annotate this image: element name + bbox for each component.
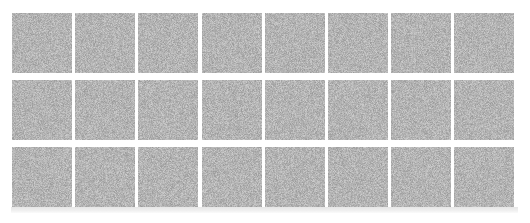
noise-grid-figure <box>0 0 530 223</box>
patch-r3-c4-texture <box>202 147 262 207</box>
patch-r2-c7 <box>391 80 451 140</box>
patch-r1-c2-texture <box>75 13 135 73</box>
patch-r3-c3 <box>138 147 198 207</box>
patch-r3-c3-texture <box>138 147 198 207</box>
patch-r2-c1-texture <box>12 80 72 140</box>
patch-r3-c7-texture <box>391 147 451 207</box>
patch-r1-c2 <box>75 13 135 73</box>
patch-r1-c4 <box>202 13 262 73</box>
patch-r2-c2-texture <box>75 80 135 140</box>
patch-r1-c6 <box>328 13 388 73</box>
patch-grid <box>0 0 530 223</box>
patch-r2-c6 <box>328 80 388 140</box>
patch-r2-c1 <box>12 80 72 140</box>
patch-r2-c4-texture <box>202 80 262 140</box>
patch-r2-c3-texture <box>138 80 198 140</box>
patch-r1-c5 <box>265 13 325 73</box>
patch-r3-c8-texture <box>454 147 514 207</box>
patch-r3-c1-texture <box>12 147 72 207</box>
patch-r1-c7 <box>391 13 451 73</box>
patch-r2-c6-texture <box>328 80 388 140</box>
patch-r1-c7-texture <box>391 13 451 73</box>
patch-r2-c5-texture <box>265 80 325 140</box>
patch-r1-c3 <box>138 13 198 73</box>
patch-r2-c7-texture <box>391 80 451 140</box>
patch-r3-c5 <box>265 147 325 207</box>
patch-r1-c8-texture <box>454 13 514 73</box>
patch-r3-c6-texture <box>328 147 388 207</box>
patch-r3-c4 <box>202 147 262 207</box>
patch-r3-c2 <box>75 147 135 207</box>
patch-r2-c8-texture <box>454 80 514 140</box>
patch-r3-c2-texture <box>75 147 135 207</box>
patch-r3-c7 <box>391 147 451 207</box>
patch-r1-c8 <box>454 13 514 73</box>
patch-r1-c1 <box>12 13 72 73</box>
patch-r2-c2 <box>75 80 135 140</box>
patch-r1-c5-texture <box>265 13 325 73</box>
patch-r1-c4-texture <box>202 13 262 73</box>
patch-r1-c6-texture <box>328 13 388 73</box>
patch-r3-c5-texture <box>265 147 325 207</box>
patch-r2-c4 <box>202 80 262 140</box>
patch-r3-c8 <box>454 147 514 207</box>
patch-r2-c3 <box>138 80 198 140</box>
patch-r3-c6 <box>328 147 388 207</box>
patch-r1-c1-texture <box>12 13 72 73</box>
patch-r2-c5 <box>265 80 325 140</box>
patch-r3-c1 <box>12 147 72 207</box>
patch-r2-c8 <box>454 80 514 140</box>
patch-r1-c3-texture <box>138 13 198 73</box>
